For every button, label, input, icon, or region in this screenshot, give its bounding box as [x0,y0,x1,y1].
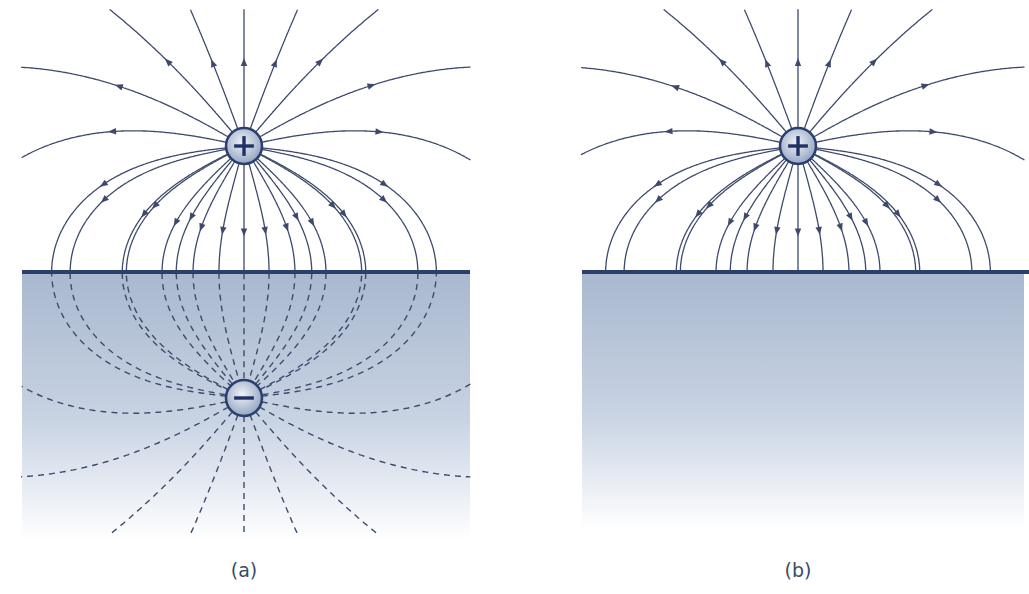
field-arrow-icon [308,218,317,228]
field-arrow-icon [725,218,734,228]
field-line [814,67,1025,137]
field-line [807,161,849,272]
field-line [260,67,471,137]
field-line [773,163,793,272]
field-line [747,161,789,272]
field-line [193,161,235,272]
field-line [110,9,233,132]
field-line [803,163,823,272]
field-arrow-icon [837,223,846,233]
field-line [676,154,782,273]
field-arrow-icon [921,81,931,90]
field-arrow-icon [241,58,247,66]
field-arrow-icon [292,212,301,222]
field-line [21,67,228,137]
field-line [249,163,269,272]
field-arrow-icon [929,128,938,135]
field-arrow-icon [98,180,108,190]
field-line [253,161,295,272]
field-arrow-icon [846,212,855,222]
field-line [664,9,787,132]
field-arrow-icon [241,228,247,236]
field-line [260,154,366,273]
field-diagram-b [555,0,1029,594]
positive-charge-icon [780,128,816,164]
field-line [162,158,231,273]
field-line [606,148,781,273]
field-line [581,68,782,137]
field-arrow-icon [375,128,384,135]
positive-charge-icon [226,128,262,164]
field-line [262,148,437,273]
field-arrow-icon [795,58,801,66]
caption-b: (b) [768,559,828,581]
image-negative-charge-icon [226,380,262,416]
field-arrow-icon [741,212,750,222]
field-line [716,158,785,273]
field-line [811,158,880,273]
field-line [52,148,227,273]
field-arrow-icon [283,223,292,233]
field-diagram-a [0,0,490,594]
field-line [256,9,379,132]
field-line [816,148,991,273]
field-line [814,154,920,273]
field-arrow-icon [670,83,680,92]
field-arrow-icon [171,218,180,228]
field-line [257,158,326,273]
field-arrow-icon [664,128,672,135]
field-arrow-icon [751,223,760,233]
field-arrow-icon [271,58,280,68]
field-arrow-icon [114,82,124,91]
panel-a-with-image-charge: (a) [0,0,490,594]
field-arrow-icon [108,128,116,135]
field-arrow-icon [367,81,377,90]
caption-a: (a) [214,559,274,581]
field-line [730,160,786,272]
field-line [122,154,228,273]
field-line [22,131,227,158]
panel-b-conductor-only: (b) [555,0,1029,594]
field-arrow-icon [795,228,801,236]
field-line [256,160,312,272]
field-arrow-icon [825,58,834,68]
field-line [810,160,866,272]
field-arrow-icon [652,180,662,190]
field-line [219,163,239,272]
field-arrow-icon [862,218,871,228]
field-line [176,160,232,272]
field-arrow-icon [380,180,390,190]
field-arrow-icon [187,212,196,222]
field-arrow-icon [197,223,206,233]
field-arrow-icon [762,58,771,68]
field-line [810,9,933,132]
field-arrow-icon [208,58,217,68]
conductor-region [582,272,1024,530]
field-arrow-icon [934,180,944,190]
